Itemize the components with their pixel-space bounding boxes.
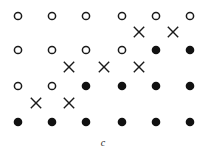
filled-circle-icon	[186, 82, 195, 91]
open-circle-icon	[118, 46, 125, 53]
x-mark-icon	[64, 62, 74, 72]
filled-circle-icon	[152, 82, 161, 91]
filled-circle-icon	[152, 118, 161, 127]
open-circle-icon	[152, 12, 159, 19]
open-circle-icon	[82, 12, 89, 19]
figure-caption: c	[0, 137, 206, 148]
open-circle-icon	[14, 46, 21, 53]
filled-circle-icon	[152, 46, 161, 55]
x-mark-icon	[134, 62, 144, 72]
filled-circle-icon	[186, 46, 195, 55]
x-mark-icon	[64, 98, 74, 108]
lattice-diagram	[0, 0, 206, 153]
filled-circle-icon	[118, 118, 127, 127]
open-circle-icon	[186, 12, 193, 19]
x-mark-icon	[31, 98, 41, 108]
open-circle-icon	[82, 46, 89, 53]
open-circle-icon	[48, 46, 55, 53]
open-circle-icon	[14, 82, 21, 89]
filled-circle-icon	[48, 118, 57, 127]
open-circle-icon	[14, 12, 21, 19]
x-mark-icon	[99, 62, 109, 72]
x-mark-icon	[134, 27, 144, 37]
x-mark-icon	[168, 27, 178, 37]
filled-circle-icon	[82, 82, 91, 91]
filled-circle-icon	[14, 118, 23, 127]
filled-circle-icon	[118, 82, 127, 91]
filled-circle-icon	[186, 118, 195, 127]
open-circle-icon	[48, 12, 55, 19]
filled-circle-icon	[82, 118, 91, 127]
open-circle-icon	[48, 82, 55, 89]
open-circle-icon	[118, 12, 125, 19]
